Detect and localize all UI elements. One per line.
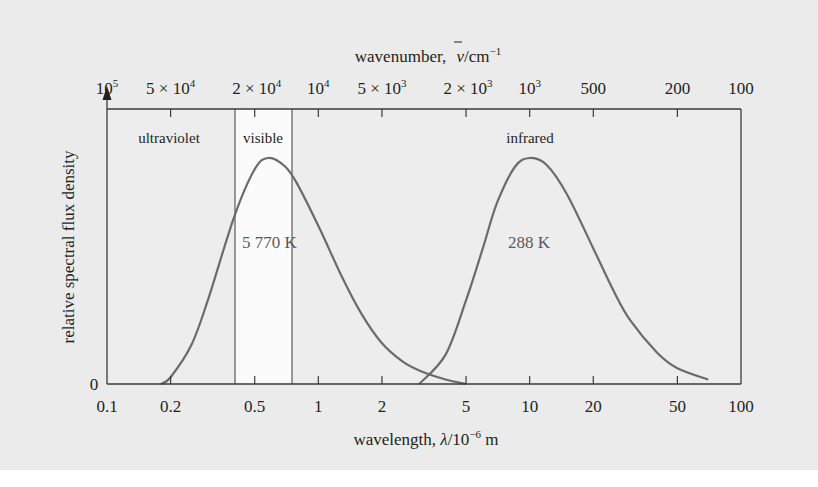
x-tick-label: 20: [585, 397, 602, 416]
top-tick-label: 2 × 103: [444, 77, 494, 98]
top-tick-label: 103: [518, 77, 541, 98]
top-axis-title-unit: /cm: [464, 47, 490, 66]
region-label-ultraviolet: ultraviolet: [138, 130, 200, 146]
top-tick-label: 500: [581, 79, 607, 98]
region-label-visible: visible: [243, 130, 283, 146]
curve-label-288k: 288 K: [508, 233, 551, 252]
top-tick-label: 105: [96, 77, 119, 98]
x-tick-labels: 0.10.20.5125102050100: [96, 397, 753, 416]
x-tick-label: 10: [521, 397, 538, 416]
top-axis-title-prefix: wavenumber,: [355, 47, 451, 66]
top-tick-label: 5 × 103: [357, 77, 407, 98]
x-tick-label: 50: [669, 397, 686, 416]
x-axis-title-exp: −6: [469, 428, 481, 440]
x-axis-title-unit: /10: [448, 430, 470, 449]
x-tick-label: 2: [378, 397, 387, 416]
top-tick-labels: 1055 × 1042 × 1041045 × 1032 × 103103500…: [96, 77, 754, 98]
y-axis-title: relative spectral flux density: [59, 150, 78, 344]
top-tick-label: 200: [665, 79, 691, 98]
top-axis-title: wavenumber, ν/cm−1: [355, 45, 501, 66]
spectral-flux-chart: 0.10.20.5125102050100 1055 × 1042 × 1041…: [0, 0, 818, 487]
plot-area: [107, 109, 741, 384]
y-zero-label: 0: [90, 375, 99, 394]
top-tick-label: 2 × 104: [232, 77, 282, 98]
x-axis-title-suffix: m: [481, 430, 498, 449]
top-axis-title-exp: −1: [489, 45, 501, 57]
lambda-symbol: λ: [439, 430, 447, 449]
x-tick-label: 0.2: [160, 397, 181, 416]
top-tick-label: 5 × 104: [146, 77, 196, 98]
region-label-infrared: infrared: [506, 130, 554, 146]
x-axis-title-prefix: wavelength,: [353, 430, 440, 449]
x-tick-label: 0.5: [244, 397, 265, 416]
top-tick-label: 100: [728, 79, 754, 98]
curve-label-5770k: 5 770 K: [242, 233, 298, 252]
x-tick-label: 1: [314, 397, 323, 416]
x-tick-label: 5: [462, 397, 471, 416]
x-axis-title: wavelength, λ/10−6 m: [353, 428, 498, 449]
x-tick-label: 0.1: [96, 397, 117, 416]
x-tick-label: 100: [728, 397, 754, 416]
top-tick-label: 104: [307, 77, 330, 98]
